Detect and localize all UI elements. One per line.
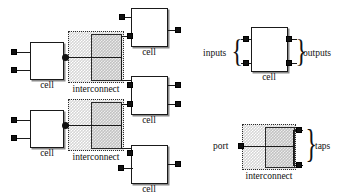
cell-right-middle-label: cell	[142, 115, 156, 125]
wire-bottom-horizontal	[64, 125, 122, 126]
pin-legend-cell-in2[interactable]	[243, 60, 249, 66]
wire-bottom-vertical	[121, 104, 122, 148]
pin-legend-icx-tap1[interactable]	[296, 127, 302, 133]
cell-legend-outputs-label: outputs	[303, 48, 331, 58]
pin-legend-cell-out2[interactable]	[286, 60, 292, 66]
pin-cellRM-out1[interactable]	[175, 82, 181, 88]
pin-cellLB-in2[interactable]	[11, 135, 17, 141]
pin-cellRB-in2[interactable]	[118, 165, 124, 171]
interconnect-legend-taps-label: taps	[315, 141, 330, 151]
pin-cellRT-in1[interactable]	[119, 14, 125, 20]
cell-right-top[interactable]	[131, 8, 168, 47]
cell-right-middle[interactable]	[131, 76, 168, 115]
pin-cellRB-in1[interactable]	[127, 150, 133, 156]
cell-left-top-label: cell	[40, 80, 54, 90]
wire-legend-icx-vertical	[293, 130, 294, 166]
interconnect-legend-box-label: interconnect	[246, 171, 293, 181]
cell-right-top-label: cell	[142, 47, 156, 57]
pin-cellRM-in2[interactable]	[127, 101, 133, 107]
lead-cellLT-in2	[17, 70, 31, 71]
wire-top-vertical	[121, 36, 122, 80]
pin-legend-icx-tap2[interactable]	[296, 162, 302, 168]
cell-legend-box[interactable]	[251, 27, 288, 72]
cell-left-bottom-label: cell	[40, 148, 54, 158]
node-cellLT-out[interactable]	[62, 54, 69, 61]
cell-right-bottom-label: cell	[142, 184, 156, 194]
lead-cellLB-in1	[17, 120, 31, 121]
interconnect-legend-port-label: port	[213, 141, 228, 151]
lead-legend-icx-port	[243, 146, 295, 147]
pin-legend-cell-out1[interactable]	[286, 36, 292, 42]
cell-legend-inputs-label: inputs	[203, 48, 226, 58]
pin-legend-icx-port[interactable]	[238, 143, 244, 149]
interconnect-legend-inner	[265, 127, 295, 168]
pin-cellLT-in2[interactable]	[11, 67, 17, 73]
pin-cellRM-out2[interactable]	[175, 101, 181, 107]
cell-legend-box-label: cell	[262, 72, 276, 82]
pin-cellRB-out[interactable]	[175, 161, 181, 167]
lead-cellLT-in1	[17, 52, 31, 53]
cell-right-bottom[interactable]	[131, 145, 168, 184]
cell-left-top[interactable]	[30, 42, 64, 80]
interconnect-top-label: interconnect	[73, 84, 120, 94]
lead-cellLB-in2	[17, 138, 31, 139]
pin-legend-cell-in1[interactable]	[243, 36, 249, 42]
interconnect-bottom-label: interconnect	[73, 152, 120, 162]
figure-canvas: interconnect interconnect cell cell cell…	[0, 0, 345, 196]
pin-cellRM-in1[interactable]	[127, 82, 133, 88]
pin-cellLB-in1[interactable]	[11, 117, 17, 123]
node-cellLB-out[interactable]	[62, 122, 69, 129]
pin-cellRT-in2[interactable]	[127, 33, 133, 39]
pin-cellLT-in1[interactable]	[11, 49, 17, 55]
cell-left-bottom[interactable]	[30, 110, 64, 148]
wire-top-horizontal	[64, 57, 122, 58]
pin-cellRT-out[interactable]	[175, 27, 181, 33]
